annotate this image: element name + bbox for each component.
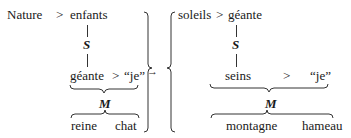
left-closing-brace: [144, 12, 152, 132]
left-over-brace: [71, 110, 139, 118]
left-under-brace: [70, 85, 138, 93]
right-over-brace: [211, 110, 333, 118]
right-opening-brace: [167, 12, 175, 132]
right-under-brace: [210, 84, 328, 92]
braces-layer: [0, 0, 351, 138]
